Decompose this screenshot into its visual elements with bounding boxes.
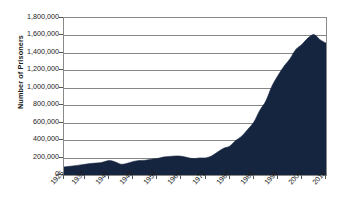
y-tick-label: 1,400,000 (14, 48, 59, 56)
plot-area (63, 17, 327, 176)
y-tick-label: 800,000 (14, 100, 59, 108)
y-tick-label: 400,000 (14, 135, 59, 143)
y-tick-label: 1,800,000 (14, 13, 59, 21)
y-tick-label: 600,000 (14, 118, 59, 126)
area-series-prisoners (64, 18, 326, 175)
prisoners-area-chart: Number of Prisoners 1,800,0001,600,0001,… (0, 0, 337, 203)
y-tick-label: 200,000 (14, 153, 59, 161)
y-tick-label: 1,000,000 (14, 83, 59, 91)
y-tick-label: 1,200,000 (14, 65, 59, 73)
y-axis-tick-labels: 1,800,0001,600,0001,400,0001,200,0001,00… (14, 0, 59, 203)
y-tick-label: 1,600,000 (14, 30, 59, 38)
y-tick-label: 0 (14, 170, 59, 178)
